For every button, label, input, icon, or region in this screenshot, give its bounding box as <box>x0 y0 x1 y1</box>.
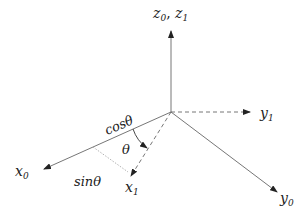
x1-axis <box>131 112 171 176</box>
theta-label: θ <box>122 142 130 157</box>
y1-label: y1 <box>259 105 274 123</box>
sin-theta-label: sinθ <box>74 174 101 189</box>
z-axis-label: z0, z1 <box>152 5 188 23</box>
y0-label: y0 <box>279 190 294 208</box>
rotation-diagram: z0, z1 y1 y0 x0 x1 cosθ sinθ θ <box>0 0 307 213</box>
cos-theta-label: cosθ <box>102 112 135 137</box>
x1-label: x1 <box>125 179 139 197</box>
theta-arc <box>133 129 147 148</box>
y0-axis <box>171 112 277 192</box>
x0-label: x0 <box>15 163 29 181</box>
x0-axis <box>44 112 171 169</box>
